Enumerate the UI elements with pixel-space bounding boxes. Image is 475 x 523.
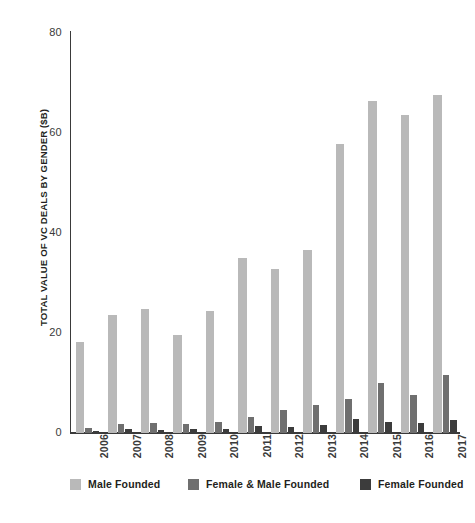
bar	[345, 399, 352, 434]
bar-group	[401, 0, 425, 433]
x-tick-label: 2010	[228, 434, 240, 478]
legend-item[interactable]: Male Founded	[70, 478, 160, 490]
bar	[313, 405, 320, 433]
bar-group	[271, 0, 295, 433]
legend-swatch-icon	[188, 479, 199, 490]
x-tick-label: 2008	[163, 434, 175, 478]
bar-group	[108, 0, 132, 433]
y-tick-label: 60	[2, 126, 62, 138]
bar-group	[433, 0, 457, 433]
bar	[410, 395, 417, 433]
bar	[378, 383, 385, 434]
legend-swatch-icon	[360, 479, 371, 490]
x-tick-label: 2014	[358, 434, 370, 478]
x-tick-label: 2006	[98, 434, 110, 478]
bar	[173, 335, 182, 433]
bar	[238, 258, 247, 433]
bar-group	[76, 0, 100, 433]
bar	[223, 429, 230, 434]
y-tick-label: 20	[2, 326, 62, 338]
bar	[336, 144, 345, 433]
bar	[108, 315, 117, 433]
bar	[85, 428, 92, 434]
bar	[443, 375, 450, 433]
y-tick-label: 40	[2, 226, 62, 238]
x-tick-label: 2011	[261, 434, 273, 478]
bar	[271, 269, 280, 433]
bar	[433, 95, 442, 433]
bar	[190, 429, 197, 433]
bar	[450, 420, 457, 434]
x-tick-label: 2015	[391, 434, 403, 478]
bar	[288, 427, 295, 433]
bar	[368, 101, 377, 433]
bar	[150, 423, 157, 433]
bar-group	[303, 0, 327, 433]
bar	[125, 429, 132, 434]
legend-swatch-icon	[70, 479, 81, 490]
bar	[303, 250, 312, 433]
x-tick-label: 2016	[423, 434, 435, 478]
vc-deals-by-gender-chart: TOTAL VALUE OF VC DEALS BY GENDER ($B) 0…	[0, 0, 475, 523]
bar	[255, 426, 262, 433]
bar-group	[141, 0, 165, 433]
legend-label: Female & Male Founded	[206, 478, 329, 490]
bar	[353, 419, 360, 433]
bar-group	[173, 0, 197, 433]
x-tick-label: 2007	[131, 434, 143, 478]
bar	[215, 422, 222, 433]
legend-label: Female Founded	[378, 478, 464, 490]
bar	[183, 424, 190, 433]
bar	[93, 431, 100, 433]
bar	[418, 423, 425, 434]
legend-item[interactable]: Female & Male Founded	[188, 478, 329, 490]
chart-legend: Male FoundedFemale & Male FoundedFemale …	[60, 478, 460, 498]
bar-group	[238, 0, 262, 433]
y-tick-label: 80	[2, 26, 62, 38]
bar-group	[336, 0, 360, 433]
y-axis-tick-labels: 020406080	[0, 0, 62, 523]
bar	[401, 115, 410, 433]
x-tick-label: 2009	[196, 434, 208, 478]
bars-layer	[70, 0, 460, 433]
bar	[248, 417, 255, 434]
x-tick-label: 2013	[326, 434, 338, 478]
bar	[76, 342, 85, 434]
bar	[320, 425, 327, 434]
bar-group	[368, 0, 392, 433]
x-axis-tick-labels: 2006200720082009201020112012201320142015…	[70, 436, 460, 478]
bar	[280, 410, 287, 433]
bar	[118, 424, 125, 433]
bar	[158, 430, 165, 434]
bar	[141, 309, 150, 434]
legend-label: Male Founded	[88, 478, 160, 490]
y-tick-label: 0	[2, 426, 62, 438]
legend-item[interactable]: Female Founded	[360, 478, 464, 490]
bar-group	[206, 0, 230, 433]
x-tick-label: 2012	[293, 434, 305, 478]
bar	[206, 311, 215, 433]
x-tick-label: 2017	[456, 434, 468, 478]
bar	[385, 422, 392, 433]
